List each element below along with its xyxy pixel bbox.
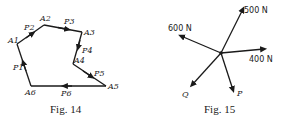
force-p-arrow [221,53,233,90]
vertex-a1-label: A1 [7,36,19,45]
edge-p1-label: P1 [12,63,23,72]
fig15-forces [181,9,264,90]
vertex-a4-label: A4 [73,56,85,65]
force-600n-label: 600 N [168,24,192,33]
force-400n-label: 400 N [249,55,273,64]
fig15-caption: Fig. 15 [204,103,236,115]
force-origin-point [219,51,223,55]
edge-p3 [44,25,82,32]
edge-p5-label: P5 [93,69,104,78]
force-q-arrow [192,53,221,85]
fig14-caption: Fig. 14 [50,103,82,115]
vertex-a5-label: A5 [107,82,119,91]
edge-p3-label: P3 [63,17,74,26]
edge-p6-label: P6 [60,89,71,98]
edge-p4-label: P4 [81,46,92,55]
vertex-a2-label: A2 [39,14,51,23]
vertex-a6-label: A6 [24,88,36,97]
force-p-label: P [236,89,243,98]
force-400n-arrow [221,49,264,53]
edge-p2-label: P2 [23,23,34,32]
force-q-label: Q [182,90,189,99]
vertex-a3-label: A3 [83,28,95,37]
force-500n-arrow [221,9,243,53]
figures-canvas: A1 A2 A3 A4 A5 A6 P1 P2 P3 P4 P5 P6 Fig.… [0,0,288,122]
force-600n-arrow [181,36,221,53]
force-500n-label: 500 N [244,6,268,15]
